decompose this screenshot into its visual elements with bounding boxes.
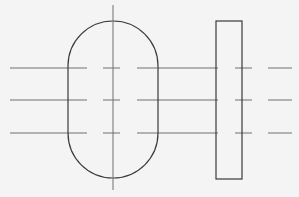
drawing-svg (0, 0, 299, 197)
technical-drawing (0, 0, 299, 197)
centerlines (10, 68, 292, 133)
